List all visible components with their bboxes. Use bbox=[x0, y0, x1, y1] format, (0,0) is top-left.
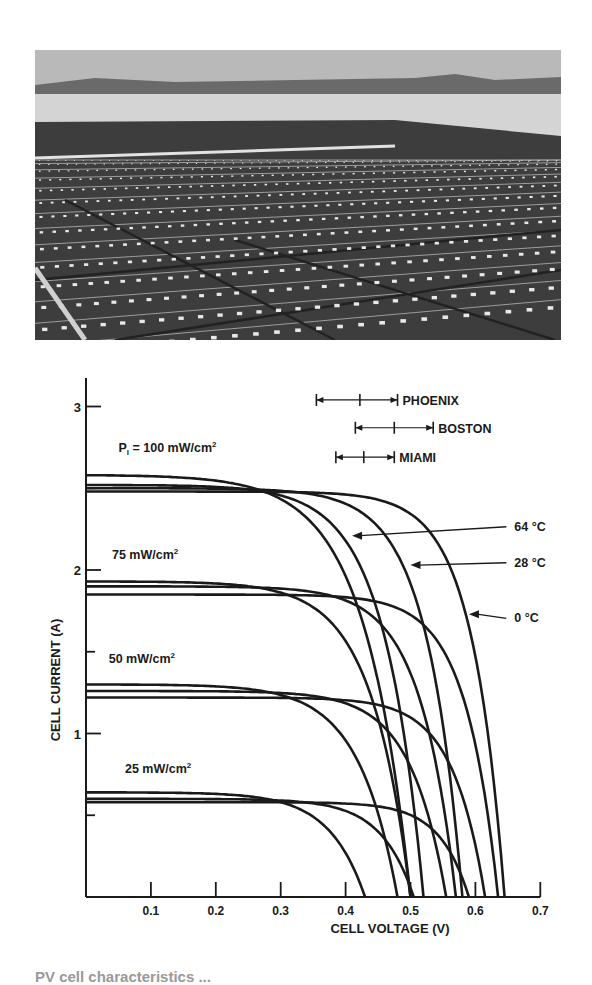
x-axis-label: CELL VOLTAGE (V) bbox=[330, 921, 449, 936]
irradiance-label: Pl = 100 mW/cm2 bbox=[118, 440, 217, 457]
arrowhead-icon bbox=[336, 454, 343, 460]
iv-curve bbox=[86, 586, 456, 897]
y-axis-label: CELL CURRENT (A) bbox=[48, 619, 63, 742]
irradiance-label: 75 mW/cm2 bbox=[112, 547, 179, 562]
chart-axes: 0.10.20.30.40.50.60.7123 bbox=[74, 378, 549, 918]
solar-panel-image bbox=[35, 50, 561, 340]
solar-panel-photo bbox=[35, 50, 561, 340]
arrowhead-icon bbox=[426, 425, 433, 431]
y-tick-label: 3 bbox=[74, 400, 81, 415]
x-tick-label: 0.3 bbox=[272, 904, 289, 918]
iv-curve bbox=[86, 802, 469, 897]
iv-curves bbox=[86, 475, 505, 897]
x-tick-label: 0.5 bbox=[402, 904, 419, 918]
iv-curve-chart: 0.10.20.30.40.50.60.7123 Pl = 100 mW/cm2… bbox=[0, 360, 592, 980]
y-tick-label: 2 bbox=[74, 563, 81, 578]
figure-caption: PV cell characteristics ... bbox=[35, 968, 211, 985]
irradiance-label: 25 mW/cm2 bbox=[125, 761, 192, 776]
temperature-label: 28 °C bbox=[514, 556, 545, 570]
x-tick-label: 0.7 bbox=[532, 904, 549, 918]
arrowhead-icon bbox=[355, 425, 362, 431]
temperature-arrow bbox=[477, 614, 506, 618]
iv-curve bbox=[86, 792, 365, 897]
x-tick-label: 0.6 bbox=[467, 904, 484, 918]
arrowhead-icon bbox=[316, 397, 323, 403]
arrowhead-icon bbox=[387, 454, 394, 460]
location-label: PHOENIX bbox=[403, 394, 460, 408]
x-tick-label: 0.4 bbox=[337, 904, 354, 918]
iv-curve bbox=[86, 698, 485, 898]
temperature-arrow bbox=[419, 563, 507, 565]
x-tick-label: 0.2 bbox=[207, 904, 224, 918]
location-label: MIAMI bbox=[399, 451, 436, 465]
irradiance-label: 50 mW/cm2 bbox=[109, 651, 176, 666]
arrowhead-icon bbox=[352, 532, 362, 540]
x-tick-label: 0.1 bbox=[143, 904, 160, 918]
iv-curve bbox=[86, 799, 414, 897]
arrowhead-icon bbox=[411, 561, 421, 569]
iv-curve bbox=[86, 581, 411, 897]
arrowhead-icon bbox=[391, 397, 398, 403]
y-tick-label: 1 bbox=[74, 727, 81, 742]
temperature-label: 64 °C bbox=[514, 520, 545, 534]
location-ranges: PHOENIXBOSTONMIAMI bbox=[316, 394, 491, 465]
arrowhead-icon bbox=[469, 610, 479, 618]
location-label: BOSTON bbox=[438, 422, 491, 436]
temperature-label: 0 °C bbox=[514, 611, 538, 625]
